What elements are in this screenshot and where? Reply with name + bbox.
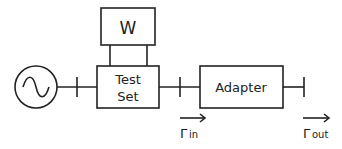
test-set-label-line2: Set [117,89,138,104]
gamma-out-subscript: out [312,129,328,140]
test-set-label-line1: Test [114,72,141,87]
gamma-in-symbol: Γ [180,126,188,141]
arrow-right-icon [180,114,205,122]
wattmeter-label: W [120,18,137,38]
adapter-label: Adapter [215,80,267,95]
ac-source-icon [15,66,57,108]
gamma-in-subscript: in [189,129,198,140]
measurement-setup-diagram: W Test Set Adapter Γ in Γ out [0,0,342,149]
arrow-right-icon [303,114,329,122]
gamma-out-symbol: Γ [303,126,311,141]
